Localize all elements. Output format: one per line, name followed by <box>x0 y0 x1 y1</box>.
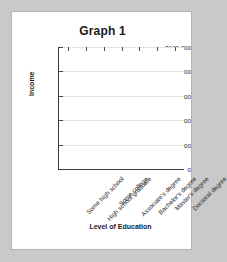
y-axis-title: Income <box>28 71 35 96</box>
plot-area <box>58 47 184 170</box>
chart-card: Graph 1 Income $100,000 80,000 60,000 40… <box>11 11 192 250</box>
x-category-label-4: Associate's degree <box>140 175 182 217</box>
x-tick-mark-1 <box>68 47 69 51</box>
y-tick-mark-100000 <box>59 47 63 48</box>
gridline-20000 <box>59 145 184 146</box>
x-axis-title: Level of Education <box>58 223 183 230</box>
x-category-label-6: Master's degree <box>173 175 204 212</box>
y-tick-mark-60000 <box>59 96 63 97</box>
x-tick-mark-2 <box>86 47 87 51</box>
x-category-label-1: Some high school <box>85 175 125 215</box>
x-category-label-2: High school graduate <box>105 175 152 222</box>
x-tick-mark-5 <box>139 47 140 51</box>
page-background: Graph 1 Income $100,000 80,000 60,000 40… <box>0 0 204 262</box>
y-tick-mark-40000 <box>59 120 63 121</box>
gridline-80000 <box>59 71 184 72</box>
x-category-label-3: Some college <box>117 175 149 207</box>
gridline-60000 <box>59 96 184 97</box>
x-tick-mark-4 <box>122 47 123 51</box>
x-tick-mark-3 <box>104 47 105 51</box>
x-tick-mark-7 <box>175 47 176 51</box>
x-category-label-7: Doctoral degree <box>191 175 204 212</box>
y-tick-mark-80000 <box>59 71 63 72</box>
y-tick-mark-20000 <box>59 145 63 146</box>
gridline-40000 <box>59 120 184 121</box>
x-category-label-5: Bachelor's degree <box>157 175 198 216</box>
x-tick-mark-6 <box>157 47 158 51</box>
chart-title: Graph 1 <box>12 24 193 38</box>
